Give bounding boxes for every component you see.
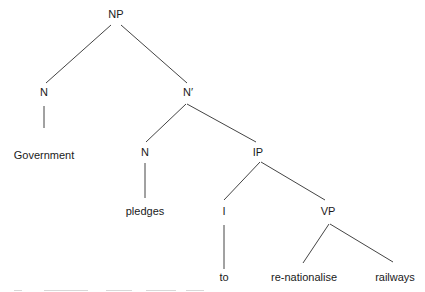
clipped-caption [14, 287, 204, 292]
edge-nbar-ip [187, 104, 256, 142]
edge-ip-vp [261, 162, 325, 200]
node-vp: VP [321, 206, 336, 217]
node-n-bar: N′ [183, 87, 193, 98]
leaf-pledges: pledges [126, 206, 165, 217]
edge-vp-railways [330, 224, 393, 262]
node-n-subject: N [40, 87, 48, 98]
node-i: I [222, 206, 225, 217]
leaf-re-nationalise: re-nationalise [271, 272, 337, 283]
node-np: NP [108, 9, 123, 20]
edge-np-n1 [46, 25, 111, 83]
node-n-head: N [141, 147, 149, 158]
node-ip: IP [253, 147, 263, 158]
edge-nbar-n2 [146, 104, 186, 142]
edge-np-nbar [121, 25, 187, 83]
leaf-government: Government [14, 150, 75, 161]
edge-vp-renat [303, 224, 329, 263]
syntax-tree-diagram: NP N N′ Government N IP pledges I VP to … [0, 0, 425, 292]
edge-ip-i [224, 162, 260, 200]
leaf-to: to [219, 272, 228, 283]
leaf-railways: railways [375, 272, 415, 283]
tree-edges [0, 0, 425, 292]
